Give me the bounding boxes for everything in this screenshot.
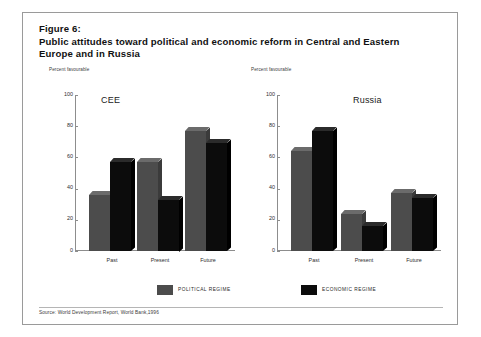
cat-label-cee-present: Present — [137, 257, 183, 263]
bar-group-cee-future: Future — [185, 95, 231, 251]
figure-title-line-2: Europe and in Russia — [39, 48, 439, 61]
source-note: Source: World Development Report, World … — [39, 310, 159, 315]
y-axis-cee — [75, 95, 76, 251]
axis-caption-cee: Percent favourable — [49, 67, 89, 72]
bar-russia-past-political[interactable] — [291, 151, 312, 251]
bar-cee-past-political[interactable] — [89, 195, 110, 251]
bar-russia-future-political[interactable] — [391, 193, 412, 251]
bar-cee-present-economic[interactable] — [158, 200, 179, 252]
axis-caption-russia: Percent favourable — [251, 67, 291, 72]
bar-group-cee-past: Past — [89, 95, 135, 251]
plot-area-cee: 100 80 60 40 20 0 — [75, 95, 235, 251]
bar-group-russia-future: Future — [391, 95, 437, 251]
cat-label-cee-past: Past — [89, 257, 135, 263]
bar-russia-present-political[interactable] — [341, 214, 362, 251]
cat-label-russia-past: Past — [291, 257, 337, 263]
cat-label-russia-future: Future — [391, 257, 437, 263]
legend-swatch-economic-icon — [301, 285, 317, 295]
chart-legend: POLITICAL REGIME ECONOMIC REGIME — [23, 285, 459, 299]
bar-russia-future-economic[interactable] — [412, 198, 433, 251]
bar-cee-future-political[interactable] — [185, 131, 206, 251]
figure-label: Figure 6: — [39, 23, 439, 36]
bar-cee-future-economic[interactable] — [206, 143, 227, 251]
chart-panel-cee: CEE 100 80 60 40 20 0 — [49, 83, 241, 255]
bar-group-cee-present: Present — [137, 95, 183, 251]
cat-label-cee-future: Future — [185, 257, 231, 263]
legend-label-economic: ECONOMIC REGIME — [322, 287, 376, 292]
source-divider — [39, 307, 443, 308]
bar-russia-present-economic[interactable] — [362, 226, 383, 251]
bar-cee-present-political[interactable] — [137, 162, 158, 251]
bar-group-russia-present: Present — [341, 95, 387, 251]
figure-frame: Figure 6: Public attitudes toward politi… — [22, 12, 458, 325]
plot-area-russia: 100 80 60 40 20 0 — [277, 95, 441, 251]
cat-label-russia-present: Present — [341, 257, 387, 263]
bar-group-russia-past: Past — [291, 95, 337, 251]
y-axis-russia — [277, 95, 278, 251]
figure-title-line-1: Public attitudes toward political and ec… — [39, 36, 439, 49]
bar-russia-past-economic[interactable] — [312, 131, 333, 251]
bar-cee-past-economic[interactable] — [110, 162, 131, 251]
legend-swatch-political-icon — [157, 285, 173, 295]
legend-label-political: POLITICAL REGIME — [178, 287, 231, 292]
chart-panel-russia: Russia 100 80 60 40 20 0 — [251, 83, 447, 255]
figure-title-block: Figure 6: Public attitudes toward politi… — [39, 23, 439, 61]
